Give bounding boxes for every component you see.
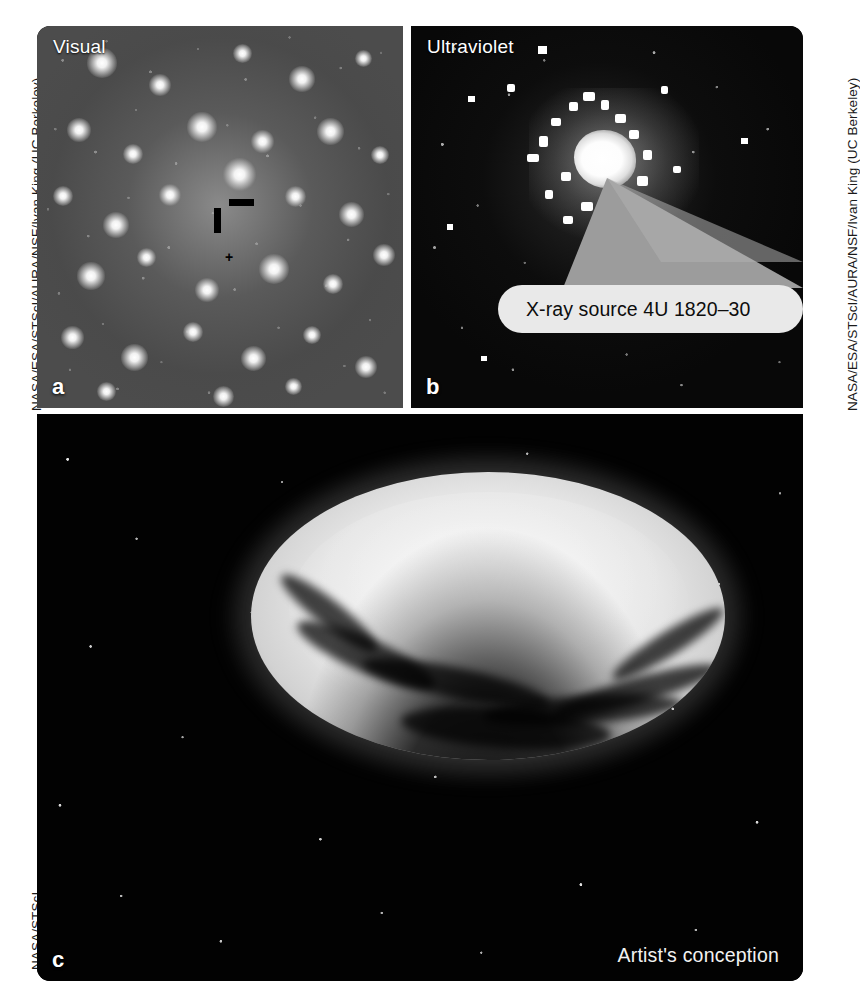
uv-speck xyxy=(711,276,717,282)
uv-speck xyxy=(538,46,547,54)
cluster-star xyxy=(373,244,395,266)
cluster-star xyxy=(103,212,129,238)
panel-label-visual: Visual xyxy=(53,36,106,58)
uv-pixel xyxy=(563,216,573,224)
uv-speck xyxy=(447,224,453,230)
cluster-star xyxy=(61,326,84,349)
uv-pixel xyxy=(545,190,553,199)
panel-letter-b: b xyxy=(426,374,439,400)
marker-tick-horizontal xyxy=(229,199,254,206)
marker-tick-vertical xyxy=(214,208,221,233)
cluster-star xyxy=(241,346,266,371)
cluster-star xyxy=(233,44,252,63)
cluster-star xyxy=(213,386,234,407)
cluster-star xyxy=(121,344,148,371)
panel-ultraviolet: X-ray source 4U 1820–30 Ultraviolet b xyxy=(411,26,803,408)
uv-pixel xyxy=(569,102,578,111)
astronomy-figure: NASA/ESA/STScI/AURA/NSF/Ivan King (UC Be… xyxy=(0,0,860,999)
panel-letter-c: c xyxy=(52,947,64,973)
cluster-star xyxy=(149,74,171,96)
accretion-disk-wisps xyxy=(251,472,725,760)
cluster-star xyxy=(317,118,344,145)
cluster-star xyxy=(339,202,364,227)
uv-pixel xyxy=(637,176,648,186)
callout-label-box: X-ray source 4U 1820–30 xyxy=(498,285,803,333)
cluster-star xyxy=(159,184,181,206)
cluster-star xyxy=(195,278,219,302)
cluster-star xyxy=(285,378,302,395)
uv-speck xyxy=(481,356,487,361)
cluster-star xyxy=(97,382,116,401)
uv-speck xyxy=(741,138,748,144)
cluster-star xyxy=(137,248,156,267)
uv-speck xyxy=(468,96,475,102)
uv-bright-source xyxy=(574,130,636,188)
credit-right-top: NASA/ESA/STScI/AURA/NSF/Ivan King (UC Be… xyxy=(845,78,860,411)
uv-pixel xyxy=(527,154,539,162)
uv-pixel xyxy=(661,86,668,94)
uv-pixel xyxy=(615,114,626,123)
uv-pixel xyxy=(551,118,561,126)
cluster-star xyxy=(323,274,343,294)
uv-pixel xyxy=(507,84,515,92)
uv-pixel xyxy=(581,202,593,211)
artist-conception-note: Artist's conception xyxy=(618,944,779,967)
cluster-star xyxy=(251,130,274,153)
cluster-star xyxy=(303,326,321,344)
uv-pixel xyxy=(561,172,571,181)
cluster-star xyxy=(67,118,91,142)
cluster-star xyxy=(259,254,289,284)
uv-pixel xyxy=(583,92,595,101)
cluster-star xyxy=(371,146,389,164)
panel-visual: + Visual a xyxy=(37,26,403,408)
panel-letter-a: a xyxy=(52,374,64,400)
uv-pixel xyxy=(601,100,609,110)
cluster-star xyxy=(285,186,306,207)
panel-label-ultraviolet: Ultraviolet xyxy=(427,36,514,58)
uv-pixel xyxy=(539,136,548,147)
cluster-star xyxy=(289,66,315,92)
panel-artist-conception: c Artist's conception xyxy=(37,414,803,981)
uv-pixel xyxy=(629,130,639,139)
uv-pixel xyxy=(673,166,681,173)
cluster-star xyxy=(187,112,217,142)
uv-pixel xyxy=(599,224,607,232)
cluster-star xyxy=(183,322,203,342)
cluster-star xyxy=(123,144,143,164)
uv-pixel xyxy=(617,196,626,205)
callout-label-text: X-ray source 4U 1820–30 xyxy=(498,298,751,321)
cluster-star xyxy=(355,356,377,378)
cluster-star xyxy=(223,158,256,191)
uv-pixel xyxy=(643,150,652,160)
marker-source-point: + xyxy=(224,252,234,262)
cluster-star xyxy=(355,50,372,67)
cluster-star xyxy=(53,186,73,206)
cluster-star xyxy=(77,262,105,290)
